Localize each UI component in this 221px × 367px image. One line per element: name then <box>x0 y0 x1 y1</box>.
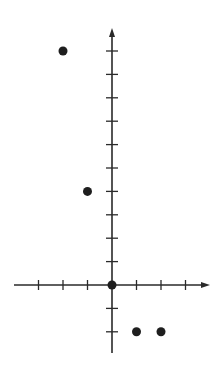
data-point <box>132 327 141 336</box>
data-point <box>83 187 92 196</box>
data-point <box>157 327 166 336</box>
scatter-plot <box>0 0 221 367</box>
y-axis-arrow-icon <box>109 28 115 37</box>
x-axis-arrow-icon <box>201 282 210 288</box>
data-point <box>108 281 117 290</box>
data-point <box>59 47 68 56</box>
axes <box>14 28 210 353</box>
